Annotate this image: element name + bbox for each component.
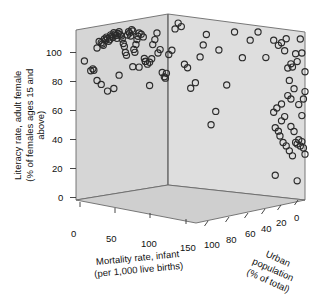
y-axis-title: Literacy rate, adult female (% of female… <box>12 45 47 205</box>
z-tick-label-5: 0 <box>294 212 299 223</box>
y-axis-title-line-1: Literacy rate, adult female <box>12 45 24 205</box>
y-tick-label-1: 80 <box>52 76 63 87</box>
y-axis-title-line-2: (% of females ages 15 and <box>23 45 35 205</box>
y-tick-label-3: 40 <box>52 134 63 145</box>
scatter-3d-chart: Literacy rate, adult female (% of female… <box>0 0 321 297</box>
z-tick-mark-0 <box>205 221 209 226</box>
z-tick-label-3: 40 <box>261 223 272 234</box>
x-tick-label-0: 0 <box>71 228 76 239</box>
z-tick-label-1: 80 <box>226 234 237 245</box>
x-tick-label-1: 50 <box>106 233 117 244</box>
z-tick-label-4: 20 <box>276 217 287 228</box>
y-axis-tick-marks <box>70 53 76 198</box>
y-tick-label-2: 60 <box>52 105 63 116</box>
z-tick-mark-3 <box>262 209 266 214</box>
z-tick-mark-2 <box>245 213 249 218</box>
z-tick-label-0: 100 <box>204 239 220 250</box>
z-tick-label-2: 60 <box>245 228 256 239</box>
x-tick-label-3: 150 <box>180 242 196 253</box>
x-tick-label-2: 100 <box>141 238 157 249</box>
y-tick-label-5: 0 <box>58 192 63 203</box>
y-axis-title-line-3: above) <box>35 45 47 205</box>
y-tick-label-0: 100 <box>46 47 62 58</box>
y-tick-label-4: 20 <box>52 163 63 174</box>
z-tick-mark-1 <box>226 217 230 222</box>
